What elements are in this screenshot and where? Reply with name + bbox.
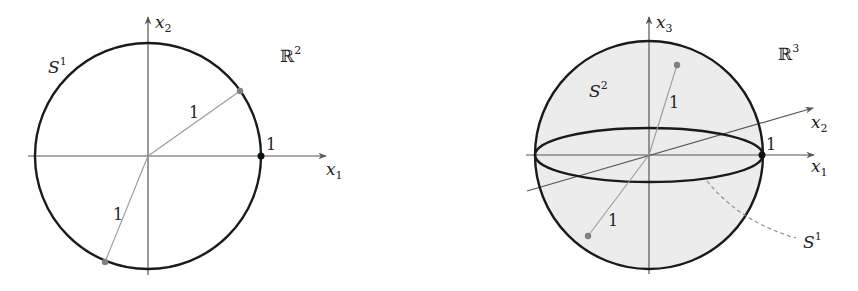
radius-label: 1 <box>608 211 618 230</box>
x2-axis-label: x2 <box>155 12 172 35</box>
x2-axis-label: x2 <box>811 112 828 135</box>
unit-point-label: 1 <box>266 135 276 154</box>
radius-label: 1 <box>189 103 199 122</box>
diagram-canvas: 1 1 1 x1 x2 ℝ2 S1 <box>0 0 858 291</box>
sphere-point <box>674 62 680 68</box>
sphere-point <box>585 233 591 239</box>
unit-point <box>759 152 766 159</box>
circle-point <box>237 88 243 94</box>
space-label: ℝ3 <box>778 42 799 64</box>
circle-figure: 1 1 1 x1 x2 ℝ2 S1 <box>28 12 343 275</box>
space-label: ℝ2 <box>280 44 301 66</box>
sphere-figure: 1 1 1 x1 x2 x3 ℝ3 S2 S1 <box>526 12 828 274</box>
radius-line <box>148 91 240 156</box>
circle-point <box>102 259 108 265</box>
x1-axis-label: x1 <box>811 156 828 179</box>
radius-line <box>105 156 148 262</box>
x1-axis-label: x1 <box>326 159 343 182</box>
shape-label: S1 <box>48 55 67 77</box>
unit-point-label: 1 <box>766 135 776 154</box>
equator-label: S1 <box>803 230 822 252</box>
radius-label: 1 <box>669 93 679 112</box>
x3-axis-label: x3 <box>656 12 673 35</box>
unit-point <box>258 153 265 160</box>
radius-label: 1 <box>113 205 123 224</box>
